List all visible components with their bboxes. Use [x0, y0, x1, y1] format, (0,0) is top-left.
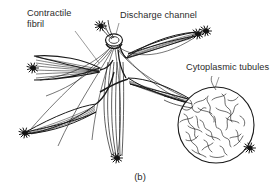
label-contractile-fibril: Contractile fibril	[27, 8, 71, 29]
label-discharge-channel: Discharge channel	[120, 10, 197, 21]
label-cytoplasmic-tubules: Cytoplasmic tubules	[186, 62, 269, 73]
cytoplasmic-tubules-inset	[164, 76, 256, 163]
figure-caption: (b)	[0, 171, 280, 182]
figure-container: Contractile fibril Discharge channel Cyt…	[0, 0, 280, 193]
leader-contractile-fibril	[75, 31, 99, 63]
fibril-terminus-tuft-lower-center	[111, 153, 123, 163]
fibril-terminus-tuft-left	[27, 63, 39, 73]
discharge-channel-apex-tuft	[95, 21, 107, 31]
fibril-terminus-tuft-lower-left	[19, 128, 31, 138]
